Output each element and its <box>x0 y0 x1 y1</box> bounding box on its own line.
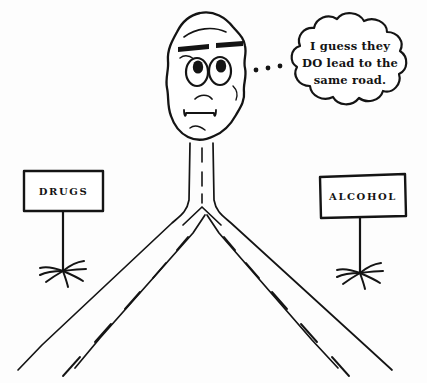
thought-dot-3 <box>278 64 283 69</box>
sign-drugs[interactable]: DRUGS <box>24 171 103 287</box>
thought-bubble: I guess they DO lead to the same road. <box>292 13 407 104</box>
thought-bubble-line-1: I guess they <box>310 39 390 53</box>
left-road-center-dashes <box>63 237 188 376</box>
thought-bubble-line-2: DO lead to the <box>302 56 398 70</box>
cartoon-canvas: DRUGS ALCOHOL <box>0 0 427 383</box>
blob-face <box>166 12 245 139</box>
left-pupil <box>193 60 203 73</box>
thought-trail-dots <box>254 64 283 73</box>
alcohol-sign-label: ALCOHOL <box>328 191 397 202</box>
thought-dot-2 <box>266 66 271 71</box>
right-pupil <box>216 59 226 72</box>
road-junction-notch <box>183 207 221 225</box>
thought-dot-1 <box>254 68 259 73</box>
thought-bubble-line-3: same road. <box>314 73 387 87</box>
drugs-sign-label: DRUGS <box>39 186 88 197</box>
right-road-center-dashes <box>224 237 349 376</box>
sign-alcohol[interactable]: ALCOHOL <box>320 174 406 289</box>
cartoon-illustration: DRUGS ALCOHOL <box>0 0 427 383</box>
